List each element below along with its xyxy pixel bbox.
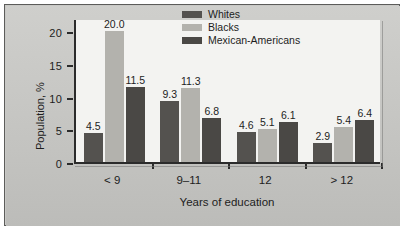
bar: 6.8 — [202, 118, 221, 163]
bar: 11.3 — [181, 88, 200, 162]
legend-label-mexican-americans: Mexican-Americans — [208, 34, 300, 46]
bar: 2.9 — [313, 143, 332, 162]
bar-value-label: 5.4 — [336, 114, 351, 126]
legend-swatch-icon-blacks — [182, 24, 202, 31]
x-tick-mark — [381, 163, 383, 169]
bar-value-label: 4.5 — [86, 120, 101, 132]
legend-label-blacks: Blacks — [208, 21, 239, 33]
bar: 6.1 — [279, 122, 298, 162]
x-category-label: 9–11 — [176, 174, 201, 186]
y-tick-mark — [67, 65, 73, 67]
bar: 4.5 — [84, 133, 103, 162]
bar: 6.4 — [355, 120, 374, 162]
bar-value-label: 5.1 — [260, 116, 275, 128]
y-tick-mark — [67, 163, 73, 165]
chart-area: Population, % 05101520 4.520.011.59.311.… — [0, 0, 406, 232]
y-tick-label: 10 — [42, 93, 62, 105]
y-tick-mark — [67, 130, 73, 132]
bar: 4.6 — [237, 132, 256, 162]
bar-value-label: 6.1 — [281, 109, 296, 121]
y-tick-label: 0 — [42, 158, 62, 170]
x-category-label: 12 — [259, 174, 272, 186]
bar-value-label: 11.5 — [125, 74, 145, 86]
bar: 9.3 — [160, 101, 179, 162]
bar-value-label: 4.6 — [239, 119, 254, 131]
x-category-label: < 9 — [104, 174, 120, 186]
legend-swatch-icon-whites — [182, 11, 202, 18]
y-tick-label: 15 — [42, 60, 62, 72]
bar-value-label: 9.3 — [162, 88, 177, 100]
bar: 5.1 — [258, 129, 277, 162]
legend-item-whites: Whites — [182, 8, 300, 20]
legend-swatch-icon-mexican-americans — [182, 37, 202, 44]
x-tick-mark — [152, 163, 154, 169]
bar-value-label: 6.4 — [357, 107, 372, 119]
legend-item-blacks: Blacks — [182, 21, 300, 33]
x-category-label: > 12 — [330, 174, 353, 186]
bar-value-label: 2.9 — [315, 130, 330, 142]
y-tick-label: 20 — [42, 27, 62, 39]
bar: 5.4 — [334, 127, 353, 162]
bar: 11.5 — [126, 87, 145, 162]
legend-label-whites: Whites — [208, 8, 240, 20]
x-tick-mark — [305, 163, 307, 169]
x-tick-mark — [228, 163, 230, 169]
y-tick-mark — [67, 98, 73, 100]
bar-value-label: 20.0 — [104, 18, 124, 30]
legend-item-mexican-americans: Mexican-Americans — [182, 34, 300, 46]
x-axis-title: Years of education — [74, 196, 380, 208]
bar-value-label: 6.8 — [204, 105, 219, 117]
bar-value-label: 11.3 — [181, 75, 201, 87]
bar: 20.0 — [105, 31, 124, 162]
y-tick-mark — [67, 32, 73, 34]
figure: Population, % 05101520 4.520.011.59.311.… — [0, 0, 406, 232]
y-tick-label: 5 — [42, 125, 62, 137]
legend: Whites Blacks Mexican-Americans — [182, 8, 300, 47]
